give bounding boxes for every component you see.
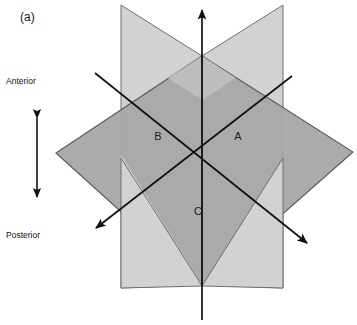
plane-c-label: C bbox=[194, 205, 202, 217]
figure-tag: (a) bbox=[20, 10, 35, 24]
figure-container: (a) Anterior Posterior B A C bbox=[0, 0, 357, 325]
planes-diagram: (a) Anterior Posterior B A C bbox=[0, 0, 357, 325]
plane-a-label: A bbox=[234, 130, 242, 142]
anterior-label: Anterior bbox=[6, 76, 36, 86]
posterior-label: Posterior bbox=[6, 230, 40, 240]
plane-b-label: B bbox=[154, 130, 161, 142]
